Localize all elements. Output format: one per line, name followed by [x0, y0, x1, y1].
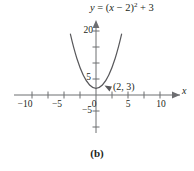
parabola-figure: y = (x − 2)2 + 3 −10 −5 0 5 10 20 5 −5 (…: [0, 0, 194, 171]
equation-label: y = (x − 2)2 + 3: [90, 3, 154, 14]
y-axis-arrowhead: [93, 20, 100, 28]
x-tick-label-5: 5: [120, 100, 136, 110]
x-tick-label-10: 10: [150, 100, 172, 110]
y-tick-label-20: 20: [75, 26, 93, 36]
y-tick-label-neg5: −5: [72, 106, 92, 116]
x-axis-arrowhead: [172, 92, 180, 99]
figure-caption: (b): [0, 148, 194, 159]
graph-canvas: [0, 0, 194, 171]
x-tick-label-neg10: −10: [13, 100, 37, 110]
x-axis-label: x: [182, 86, 186, 96]
vertex-annotation-label: (2, 3): [113, 82, 135, 92]
x-tick-label-neg5: −5: [46, 100, 68, 110]
vertex-pointer-arrowhead: [105, 86, 113, 92]
y-tick-label-5: 5: [77, 73, 91, 83]
